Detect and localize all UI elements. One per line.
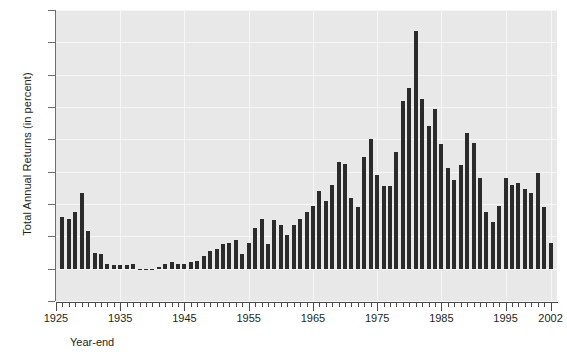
x-axis-tick-major [56, 303, 57, 311]
x-axis-tick-label: 1965 [283, 312, 343, 324]
x-axis-tick-minor [172, 303, 173, 307]
x-axis-tick-minor [486, 303, 487, 307]
x-axis-tick-minor [467, 303, 468, 307]
bar [99, 254, 103, 269]
bar [272, 220, 276, 269]
x-axis-tick-minor [345, 303, 346, 307]
bar [330, 185, 334, 269]
x-axis-tick-minor [146, 303, 147, 307]
bar [382, 186, 386, 268]
y-axis-tick [48, 139, 55, 140]
bar [86, 231, 90, 268]
bar [67, 219, 71, 269]
bar [163, 264, 167, 269]
bar [407, 88, 411, 269]
bar [60, 217, 64, 269]
bar [343, 164, 347, 269]
bar [523, 189, 527, 268]
bar [439, 144, 443, 268]
x-axis-tick-minor [127, 303, 128, 307]
bar [452, 180, 456, 269]
bar [157, 267, 161, 269]
bar [484, 212, 488, 269]
bar [349, 198, 353, 269]
x-axis-tick-minor [133, 303, 134, 307]
bar [427, 126, 431, 268]
bar [478, 178, 482, 269]
x-axis-tick-minor [82, 303, 83, 307]
y-axis-title: Total Annual Returns (in percent) [21, 44, 33, 264]
x-axis-tick-label: 1955 [219, 312, 279, 324]
x-axis-tick-minor [307, 303, 308, 307]
bar [105, 264, 109, 269]
x-axis-tick-minor [396, 303, 397, 307]
x-axis-tick-minor [242, 303, 243, 307]
bar [176, 264, 180, 269]
bar [298, 219, 302, 269]
x-axis-tick-minor [159, 303, 160, 307]
bar [536, 173, 540, 268]
x-axis-tick-major [551, 303, 552, 311]
x-axis-tick-major [377, 303, 378, 311]
bar [227, 243, 231, 269]
y-axis-tick [48, 10, 55, 11]
bar [529, 193, 533, 269]
bar [362, 157, 366, 269]
x-axis-tick-minor [544, 303, 545, 307]
x-axis-tick-minor [384, 303, 385, 307]
x-axis-tick-minor [140, 303, 141, 307]
x-axis-tick-minor [339, 303, 340, 307]
x-axis-tick-label: 1935 [90, 312, 150, 324]
bar [394, 152, 398, 268]
x-axis-tick-minor [512, 303, 513, 307]
bar [112, 265, 116, 268]
x-axis-tick-minor [255, 303, 256, 307]
bar-series [56, 10, 557, 301]
bar [401, 101, 405, 269]
x-axis-tick-major [120, 303, 121, 311]
x-axis-tick-minor [268, 303, 269, 307]
x-axis-tick-minor [371, 303, 372, 307]
y-axis-tick [48, 107, 55, 108]
bar [285, 235, 289, 269]
x-axis-tick-minor [499, 303, 500, 307]
bar [247, 243, 251, 269]
bar [549, 243, 553, 269]
x-axis-tick-minor [152, 303, 153, 307]
x-axis-tick-minor [217, 303, 218, 307]
bar [189, 262, 193, 268]
x-axis-tick-major [313, 303, 314, 311]
x-axis-tick-minor [165, 303, 166, 307]
x-axis-tick-major [184, 303, 185, 311]
bar [138, 269, 142, 270]
x-axis-tick-minor [88, 303, 89, 307]
bar [125, 265, 129, 268]
bar [497, 206, 501, 269]
x-axis-tick-label: 1925 [26, 312, 86, 324]
bar-chart: Total Annual Returns (in percent) -20246… [0, 0, 567, 360]
x-axis-tick-minor [538, 303, 539, 307]
y-axis-tick [48, 172, 55, 173]
x-axis-title: Year-end [70, 336, 114, 348]
x-axis-tick-minor [191, 303, 192, 307]
bar [414, 31, 418, 269]
y-axis-line [55, 10, 56, 301]
x-axis-tick-minor [62, 303, 63, 307]
bar [150, 269, 154, 270]
x-axis-tick-minor [204, 303, 205, 307]
y-axis-tick [48, 269, 55, 270]
x-axis-tick-minor [210, 303, 211, 307]
bar [369, 139, 373, 268]
bar [279, 225, 283, 269]
bar [472, 143, 476, 269]
x-axis-tick-minor [281, 303, 282, 307]
x-axis-tick-minor [429, 303, 430, 307]
x-axis-tick-minor [236, 303, 237, 307]
y-axis-tick [48, 204, 55, 205]
bar [202, 256, 206, 269]
x-axis-tick-major [441, 303, 442, 311]
x-axis-tick-minor [178, 303, 179, 307]
x-axis-tick-label: 1975 [347, 312, 407, 324]
y-axis-tick [48, 42, 55, 43]
bar [208, 251, 212, 269]
